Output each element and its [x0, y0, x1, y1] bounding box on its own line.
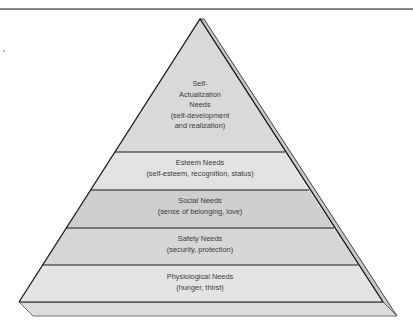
label-physiological: Physiological Needs (hunger, thirst) — [100, 272, 300, 293]
label-safety: Safety Needs (security, protection) — [100, 234, 300, 255]
label-self-actualization: Self- Actualization Needs (self-developm… — [140, 79, 260, 132]
label-subtitle: (hunger, thirst) — [100, 283, 300, 294]
label-line: (self-development — [140, 111, 260, 122]
label-title: Esteem Needs — [100, 158, 300, 169]
label-subtitle: (sense of belonging, love) — [100, 207, 300, 218]
label-esteem: Esteem Needs (self-esteem, recognition, … — [100, 158, 300, 179]
label-line: Actualization — [140, 90, 260, 101]
label-title: Physiological Needs — [100, 272, 300, 283]
label-line: Self- — [140, 79, 260, 90]
label-line: and realization) — [140, 121, 260, 132]
label-subtitle: (self-esteem, recognition, status) — [100, 169, 300, 180]
label-title: Safety Needs — [100, 234, 300, 245]
label-subtitle: (security, protection) — [100, 245, 300, 256]
label-line: Needs — [140, 100, 260, 111]
pyramid-base-face — [19, 302, 397, 316]
label-title: Social Needs — [100, 196, 300, 207]
label-social: Social Needs (sense of belonging, love) — [100, 196, 300, 217]
